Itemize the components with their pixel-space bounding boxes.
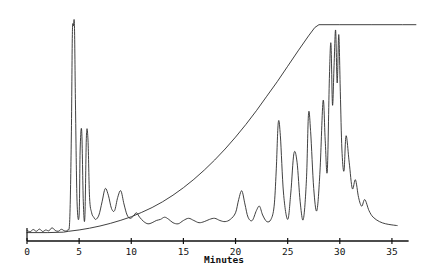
chromatogram-plot: 05101520253035 Minutes <box>0 0 439 278</box>
detector-signal-line <box>27 19 397 231</box>
x-axis-tick-label: 0 <box>24 246 30 257</box>
x-axis-tick-label: 15 <box>178 246 189 257</box>
x-axis-tick-label: 30 <box>334 246 346 257</box>
plot-traces <box>27 19 416 232</box>
x-axis-title: Minutes <box>204 254 244 265</box>
x-axis: 05101520253035 <box>24 228 408 257</box>
chromatogram-figure: 05101520253035 Minutes <box>0 0 439 278</box>
x-axis-tick-label: 35 <box>386 246 397 257</box>
x-axis-tick-label: 10 <box>126 246 138 257</box>
x-axis-tick-label: 25 <box>282 246 293 257</box>
x-axis-tick-label: 5 <box>76 246 82 257</box>
